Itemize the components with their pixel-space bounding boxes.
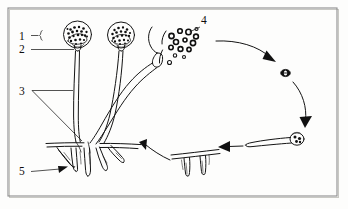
rhizopus-life-cycle-diagram: 1 2 3 4 5 [0,0,348,209]
label-1-group: 1 [19,30,43,42]
label-4-text: 4 [201,14,207,26]
germinating-spore [281,69,291,76]
sporangium-ruptured-right [90,27,166,144]
label-5-text: 5 [19,165,25,177]
sporangium-intact-left [64,21,92,142]
arrow-germtube-to-stolon [218,141,243,152]
stolon-with-rhizoids [171,150,220,177]
label-3-group: 3 [19,85,82,141]
spore-speckles-middle [111,26,131,45]
label-5-leader [31,169,60,172]
spore-speckles-left [67,26,89,45]
label-2-text: 2 [19,43,25,55]
label-3-leader-diagonal [32,91,82,142]
germ-tube-spore [246,132,305,146]
label-5-arrowhead [58,166,68,173]
label-3-text: 3 [19,85,25,97]
arrow-germinating-to-germtube [293,82,312,128]
label-1-text: 1 [19,30,25,42]
released-spores [168,28,199,65]
arrow-stolon-to-mycelium [139,139,170,160]
figure-root: 1 2 3 4 5 [0,0,348,209]
arrow-spores-to-germinating [216,41,276,62]
label-2-group: 2 [19,43,74,55]
label-5-group: 5 [19,165,68,177]
label-1-brace [40,31,43,41]
